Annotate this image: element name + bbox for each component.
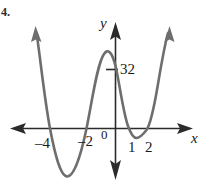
x-tick-label-1: 1	[128, 140, 136, 155]
curve-right-arrow-icon	[165, 26, 175, 42]
y-axis-label: y	[100, 16, 107, 31]
x-tick-label-neg4: –4	[35, 136, 50, 151]
figure-item-number: 4.	[1, 6, 10, 18]
origin-label: 0	[101, 128, 108, 141]
x-tick-label-2: 2	[145, 140, 153, 155]
y-tick-label-32: 32	[120, 62, 135, 77]
x-axis-label: x	[191, 131, 198, 146]
x-tick-label-neg2: –2	[78, 134, 93, 149]
curve-left-arrow-icon	[31, 26, 42, 42]
graph-figure: 4. y x 32 –4 –2 0 1 2	[0, 0, 212, 186]
